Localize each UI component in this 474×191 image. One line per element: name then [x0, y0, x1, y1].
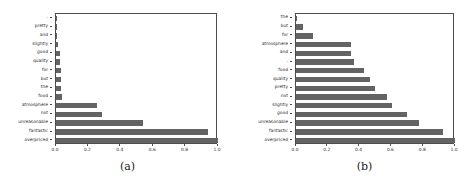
bar	[56, 68, 61, 73]
y-axis-label: not	[281, 94, 288, 98]
bar	[296, 77, 370, 82]
bar-row	[296, 138, 453, 143]
y-axis-tick	[290, 69, 292, 70]
bar-row	[296, 24, 453, 29]
panel-caption-b: (b)	[237, 160, 474, 173]
y-axis-label: fantastic	[269, 129, 288, 133]
y-axis-tick	[50, 17, 52, 18]
bar	[296, 24, 303, 29]
x-axis-label: 1.0	[214, 148, 221, 152]
y-axis-tick	[290, 17, 292, 18]
bar	[296, 59, 354, 64]
x-axis-tick	[422, 144, 423, 146]
y-axis-label: .	[287, 59, 288, 63]
y-axis-labels-a: .prettyandslightlygoodqualityforbutthefo…	[0, 13, 52, 144]
bar-row	[296, 42, 453, 47]
bar-row	[56, 120, 216, 125]
y-axis-tick	[290, 26, 292, 27]
y-axis-label: and	[280, 50, 288, 54]
bar-row	[56, 42, 216, 47]
bar-row	[296, 33, 453, 38]
bar-row	[296, 129, 453, 134]
bar-row	[56, 103, 216, 108]
y-axis-tick	[50, 78, 52, 79]
x-axis-label: 0.4	[355, 148, 362, 152]
y-axis-label: unreasonable	[18, 120, 48, 124]
bar	[56, 103, 97, 108]
y-axis-label: food	[278, 68, 288, 72]
x-axis-label: 0.6	[149, 148, 156, 152]
x-axis-label: 1.0	[451, 148, 458, 152]
bar	[56, 77, 61, 82]
y-axis-tick	[50, 69, 52, 70]
bar-row	[56, 59, 216, 64]
bar-row	[56, 51, 216, 56]
plot-area-b	[295, 13, 454, 144]
bar-row	[56, 68, 216, 73]
y-axis-tick	[50, 113, 52, 114]
y-axis-tick	[50, 52, 52, 53]
bar	[296, 86, 375, 91]
bar-row	[296, 120, 453, 125]
y-axis-label: good	[37, 50, 48, 54]
plot-area-a	[55, 13, 217, 144]
y-axis-tick	[290, 52, 292, 53]
y-axis-label: quality	[273, 76, 288, 80]
x-axis-tick	[217, 144, 218, 146]
bar	[296, 51, 351, 56]
bar	[56, 138, 218, 143]
y-axis-tick	[50, 61, 52, 62]
y-axis-label: the	[281, 15, 288, 19]
x-axis-tick	[390, 144, 391, 146]
bar-row	[296, 86, 453, 91]
bar	[56, 51, 60, 56]
bar	[296, 120, 419, 125]
y-axis-label: overpriced	[24, 137, 48, 141]
bar-row	[296, 51, 453, 56]
bar	[296, 16, 297, 21]
bar-row	[56, 77, 216, 82]
bars-container-b	[296, 14, 453, 143]
y-axis-label: for	[42, 68, 48, 72]
bar	[296, 94, 387, 99]
bar	[296, 112, 407, 117]
chart-panel-a: .prettyandslightlygoodqualityforbutthefo…	[0, 0, 237, 191]
y-axis-tick	[290, 34, 292, 35]
bar	[56, 94, 62, 99]
bar-row	[56, 138, 216, 143]
bar	[296, 103, 392, 108]
y-axis-label: good	[277, 111, 288, 115]
bar	[296, 138, 455, 143]
y-axis-tick	[50, 34, 52, 35]
y-axis-label: the	[41, 85, 48, 89]
y-axis-tick	[50, 139, 52, 140]
y-axis-label: but	[41, 76, 48, 80]
y-axis-tick	[50, 104, 52, 105]
panel-caption-a: (a)	[0, 160, 237, 173]
bar-row	[296, 94, 453, 99]
x-axis-label: 0.2	[84, 148, 91, 152]
bar-row	[296, 68, 453, 73]
y-axis-label: slightly	[272, 102, 288, 106]
y-axis-tick	[290, 131, 292, 132]
y-axis-tick	[50, 26, 52, 27]
y-axis-tick	[290, 113, 292, 114]
y-axis-tick	[50, 96, 52, 97]
bar	[56, 33, 57, 38]
bar-row	[56, 16, 216, 21]
y-axis-label: fantastic	[29, 129, 48, 133]
bar	[56, 59, 60, 64]
x-axis-tick	[152, 144, 153, 146]
bar	[296, 68, 364, 73]
y-axis-label: overpriced	[264, 137, 288, 141]
bar-row	[56, 94, 216, 99]
bar-row	[296, 59, 453, 64]
y-axis-tick	[50, 131, 52, 132]
x-axis-tick	[326, 144, 327, 146]
bar-row	[56, 129, 216, 134]
bar	[296, 42, 351, 47]
bar	[56, 42, 58, 47]
figure-two-bar-charts: .prettyandslightlygoodqualityforbutthefo…	[0, 0, 474, 191]
y-axis-label: quality	[33, 59, 48, 63]
x-axis-label: 0.8	[181, 148, 188, 152]
